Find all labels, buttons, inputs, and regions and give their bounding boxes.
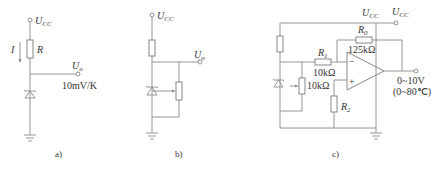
- output-range: 0~10V: [397, 75, 425, 86]
- supply-label: UCC: [35, 15, 52, 28]
- ground-icon: [146, 133, 158, 139]
- resistor-label: R: [36, 44, 43, 55]
- r0-label: R0: [357, 24, 368, 37]
- r2-label: R2: [340, 101, 351, 114]
- panel-c: UCC UCC R1 10kΩ 10kΩ R0 125kΩ: [273, 6, 431, 159]
- panel-b: UCC Uo b): [146, 10, 205, 159]
- caption-a: a): [55, 149, 62, 159]
- resistor-r1: [315, 59, 331, 65]
- ground-icon: [24, 135, 36, 141]
- wiper-arrow-icon: [172, 90, 176, 93]
- inverting-input-sign: −: [349, 56, 355, 67]
- bias-resistor: [277, 36, 283, 52]
- sensitivity-label: 10mV/K: [62, 80, 98, 91]
- output-terminal: [414, 69, 418, 73]
- supply-label: UCC: [392, 6, 409, 19]
- ground-icon: [370, 133, 382, 139]
- supply-label: UCC: [157, 10, 174, 23]
- circuit-diagram: UCC R I Uo 10mV/K a) UCC Uo: [0, 0, 444, 173]
- resistor: [149, 40, 155, 56]
- potentiometer: [176, 82, 182, 100]
- potentiometer: [299, 78, 305, 94]
- noninverting-input-sign: +: [349, 76, 355, 87]
- panel-a: UCC R I Uo 10mV/K a): [10, 15, 98, 159]
- resistor-r0: [356, 37, 372, 43]
- supply-terminal: [28, 18, 32, 22]
- resistor-r2: [331, 96, 337, 112]
- r1-label: R1: [317, 47, 328, 60]
- caption-c: c): [332, 149, 339, 159]
- temperature-range: (0~80℃): [393, 86, 431, 98]
- current-label: I: [10, 44, 15, 55]
- pot-value: 10kΩ: [307, 80, 329, 91]
- supply-terminal: [150, 13, 154, 17]
- wiper-arrow-icon: [295, 85, 299, 88]
- resistor-r: [27, 40, 33, 58]
- opamp-supply-label: UCC: [362, 7, 379, 20]
- output-label: Uo: [72, 60, 83, 73]
- zener-diode-icon: [273, 79, 284, 87]
- supply-terminal: [394, 21, 398, 25]
- caption-b: b): [175, 149, 183, 159]
- r1-value: 10kΩ: [313, 67, 335, 78]
- r0-value: 125kΩ: [348, 44, 375, 55]
